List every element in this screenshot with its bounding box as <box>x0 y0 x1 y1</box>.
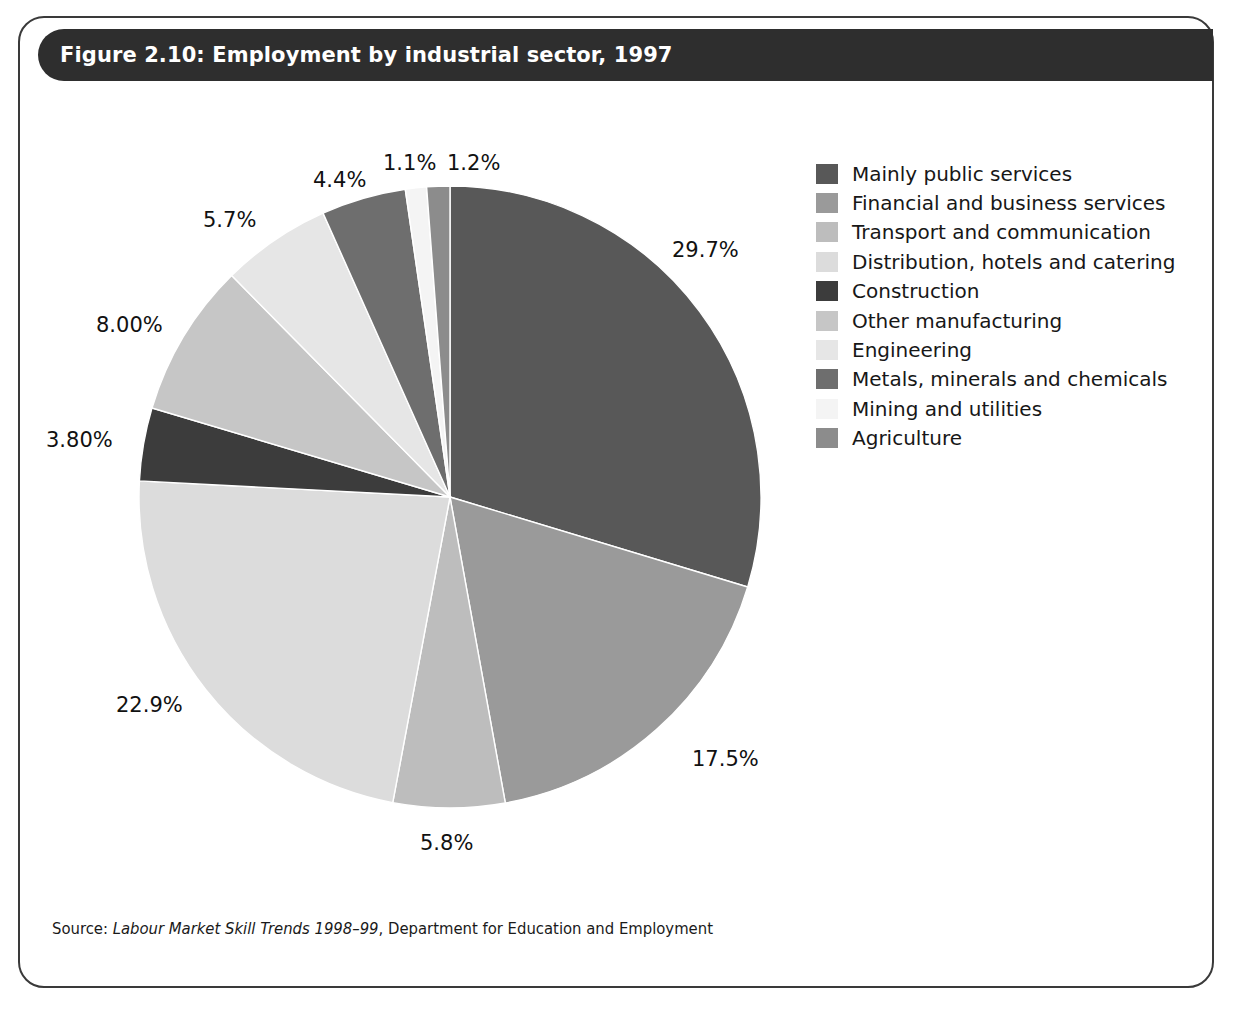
source-note: Source: Labour Market Skill Trends 1998–… <box>52 919 713 938</box>
pie-value-label: 5.7% <box>203 208 256 232</box>
pie-value-label: 22.9% <box>116 693 183 717</box>
legend-item: Financial and business services <box>816 188 1188 217</box>
legend-item-label: Transport and communication <box>852 222 1151 242</box>
legend-swatch-icon <box>816 193 838 213</box>
legend-item: Mainly public services <box>816 159 1188 188</box>
legend-item-label: Agriculture <box>852 428 962 448</box>
pie-value-label: 17.5% <box>692 747 759 771</box>
source-publisher: , Department for Education and Employmen… <box>379 919 713 938</box>
figure-title-bar: Figure 2.10: Employment by industrial se… <box>38 29 1213 81</box>
legend-item-label: Financial and business services <box>852 193 1166 213</box>
legend-item-label: Mainly public services <box>852 164 1072 184</box>
legend-swatch-icon <box>816 222 838 242</box>
legend-item: Other manufacturing <box>816 306 1188 335</box>
legend-swatch-icon <box>816 369 838 389</box>
chart-legend: Mainly public servicesFinancial and busi… <box>816 159 1188 453</box>
pie-value-label: 5.8% <box>420 831 473 855</box>
pie-value-label: 3.80% <box>46 428 113 452</box>
legend-item: Mining and utilities <box>816 394 1188 423</box>
legend-item-label: Construction <box>852 281 979 301</box>
legend-swatch-icon <box>816 399 838 419</box>
pie-value-label: 4.4% <box>313 168 366 192</box>
legend-swatch-icon <box>816 281 838 301</box>
pie-value-label: 29.7% <box>672 238 739 262</box>
pie-value-label: 1.2% <box>447 151 500 175</box>
legend-item: Transport and communication <box>816 218 1188 247</box>
legend-item: Construction <box>816 277 1188 306</box>
source-publication-title: Labour Market Skill Trends 1998–99 <box>113 919 379 938</box>
legend-swatch-icon <box>816 428 838 448</box>
page-title: Figure 2.10: Employment by industrial se… <box>38 43 673 67</box>
legend-item: Metals, minerals and chemicals <box>816 365 1188 394</box>
legend-item: Agriculture <box>816 424 1188 453</box>
legend-item-label: Distribution, hotels and catering <box>852 252 1175 272</box>
legend-item: Engineering <box>816 335 1188 364</box>
pie-value-label: 1.1% <box>383 151 436 175</box>
legend-swatch-icon <box>816 340 838 360</box>
legend-swatch-icon <box>816 311 838 331</box>
source-prefix: Source: <box>52 919 113 938</box>
legend-item-label: Engineering <box>852 340 972 360</box>
pie-value-label: 8.00% <box>96 313 163 337</box>
legend-item-label: Other manufacturing <box>852 311 1062 331</box>
legend-swatch-icon <box>816 252 838 272</box>
figure-root: Figure 2.10: Employment by industrial se… <box>0 0 1234 1019</box>
legend-item-label: Mining and utilities <box>852 399 1042 419</box>
legend-item-label: Metals, minerals and chemicals <box>852 369 1167 389</box>
legend-swatch-icon <box>816 164 838 184</box>
legend-item: Distribution, hotels and catering <box>816 247 1188 276</box>
